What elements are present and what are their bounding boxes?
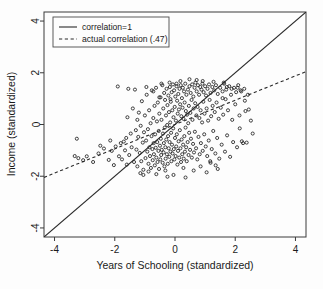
x-tick-label: 0 xyxy=(172,244,178,255)
y-tick-label: 4 xyxy=(31,18,42,24)
y-tick-label: 2 xyxy=(31,70,42,76)
legend: correlation=1 actual correlation (.47) xyxy=(53,17,169,47)
y-tick-label: -2 xyxy=(31,171,42,180)
x-tick-label: 4 xyxy=(293,244,299,255)
y-tick-label: -4 xyxy=(31,223,42,232)
x-tick-label: -2 xyxy=(110,244,119,255)
x-tick-label: 2 xyxy=(232,244,238,255)
x-axis-label: Years of Schooling (standardized) xyxy=(96,259,253,271)
legend-label-actual-correlation: actual correlation (.47) xyxy=(82,34,168,44)
y-tick-label: 0 xyxy=(31,121,42,127)
plot-canvas: -4-2024 -4-2024 Years of Schooling (stan… xyxy=(0,0,323,289)
scatter-plot-figure: -4-2024 -4-2024 Years of Schooling (stan… xyxy=(0,0,323,289)
x-tick-label: -4 xyxy=(50,244,59,255)
legend-label-correlation-one: correlation=1 xyxy=(82,22,132,32)
y-axis-label: Income (standardized) xyxy=(5,72,17,176)
